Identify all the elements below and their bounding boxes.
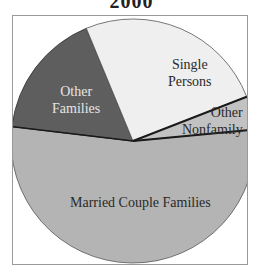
label-other-nonfamily: Other Nonfamily <box>182 104 243 138</box>
label-single-persons: Single Persons <box>168 56 212 90</box>
label-other-families: Other Families <box>52 83 100 117</box>
label-married-couple-families: Married Couple Families <box>70 194 211 211</box>
